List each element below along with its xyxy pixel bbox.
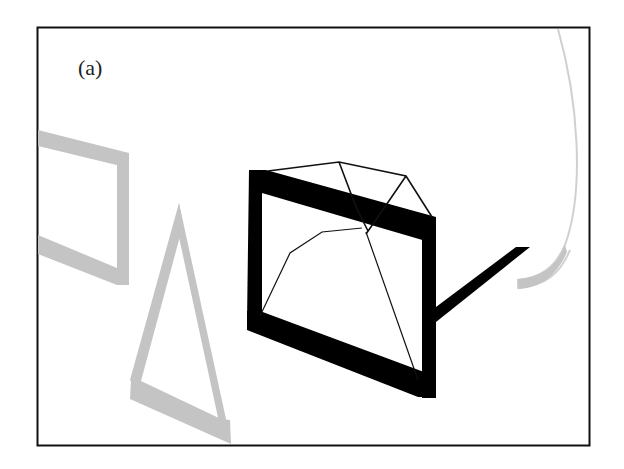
- figure-panel: (a): [0, 0, 624, 469]
- gray-triangle-frame: [130, 203, 231, 444]
- gray-rectangle-frame: [38, 130, 129, 285]
- panel-label: (a): [78, 55, 102, 81]
- black-arm: [432, 247, 530, 322]
